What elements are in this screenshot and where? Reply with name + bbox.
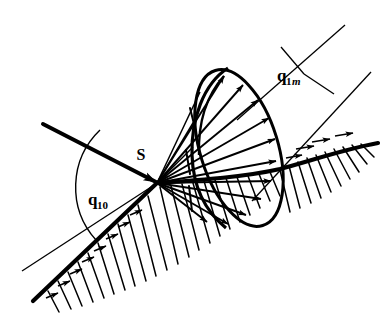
cone-angle-subscript-italic: m — [292, 75, 301, 87]
cone-angle-subscript-digit: 1 — [286, 75, 292, 87]
incidence-angle-subscript: 10 — [97, 199, 109, 211]
ray-diagram: S q 10 q 1 m — [0, 0, 389, 313]
figure-container: S q 10 q 1 m — [0, 0, 389, 313]
source-point-label: S — [137, 146, 146, 163]
